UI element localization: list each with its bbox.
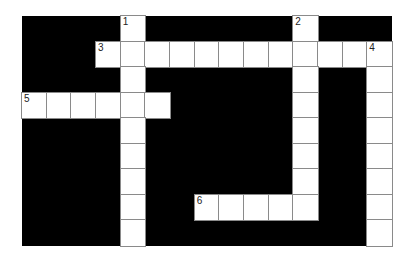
crossword-cell[interactable] (219, 195, 244, 221)
crossword-cell[interactable] (121, 220, 146, 246)
block-cell (343, 93, 368, 119)
crossword-cell[interactable] (145, 93, 170, 119)
crossword-cell[interactable] (145, 42, 170, 68)
crossword-cell[interactable] (293, 93, 318, 119)
block-cell (71, 67, 96, 93)
crossword-cell[interactable] (244, 195, 269, 221)
block-cell (170, 93, 195, 119)
crossword-cell[interactable] (367, 67, 392, 93)
block-cell (244, 144, 269, 170)
crossword-cell[interactable] (121, 42, 146, 68)
crossword-cell[interactable] (293, 169, 318, 195)
crossword-cell[interactable] (269, 42, 294, 68)
block-cell (269, 67, 294, 93)
crossword-cell[interactable] (121, 144, 146, 170)
crossword-cell[interactable] (71, 93, 96, 119)
block-cell (343, 195, 368, 221)
block-cell (318, 195, 343, 221)
crossword-cell[interactable] (367, 195, 392, 221)
block-cell (170, 118, 195, 144)
block-cell (170, 220, 195, 246)
block-cell (244, 67, 269, 93)
block-cell (96, 118, 121, 144)
crossword-cell[interactable]: 4 (367, 42, 392, 68)
block-cell (343, 118, 368, 144)
block-cell (170, 144, 195, 170)
block-cell (71, 220, 96, 246)
block-cell (22, 118, 47, 144)
crossword-cell[interactable] (318, 42, 343, 68)
block-cell (343, 169, 368, 195)
block-cell (318, 220, 343, 246)
block-cell (47, 42, 72, 68)
block-cell (195, 144, 220, 170)
block-cell (22, 144, 47, 170)
block-cell (145, 67, 170, 93)
crossword-cell[interactable] (293, 118, 318, 144)
crossword-cell[interactable] (367, 118, 392, 144)
crossword-cell[interactable] (293, 67, 318, 93)
block-cell (318, 16, 343, 42)
block-cell (47, 118, 72, 144)
block-cell (71, 195, 96, 221)
block-cell (96, 195, 121, 221)
crossword-cell[interactable] (367, 144, 392, 170)
block-cell (219, 16, 244, 42)
block-cell (343, 67, 368, 93)
block-cell (318, 144, 343, 170)
clue-number: 5 (24, 94, 30, 104)
crossword-cell[interactable] (293, 144, 318, 170)
block-cell (219, 169, 244, 195)
clue-number: 6 (197, 196, 203, 206)
block-cell (22, 16, 47, 42)
block-cell (195, 118, 220, 144)
crossword-cell[interactable] (244, 42, 269, 68)
clue-number: 4 (369, 43, 375, 53)
crossword-cell[interactable] (219, 42, 244, 68)
crossword-cell[interactable] (293, 195, 318, 221)
block-cell (244, 220, 269, 246)
block-cell (219, 144, 244, 170)
crossword-cell[interactable]: 1 (121, 16, 146, 42)
clue-number: 2 (295, 17, 301, 27)
block-cell (71, 144, 96, 170)
crossword-cell[interactable] (367, 220, 392, 246)
crossword-cell[interactable] (293, 42, 318, 68)
block-cell (96, 67, 121, 93)
crossword-cell[interactable] (170, 42, 195, 68)
block-cell (22, 195, 47, 221)
crossword-cell[interactable] (195, 42, 220, 68)
block-cell (219, 118, 244, 144)
crossword-cell[interactable] (121, 118, 146, 144)
block-cell (96, 169, 121, 195)
block-cell (47, 220, 72, 246)
crossword-cell[interactable] (121, 195, 146, 221)
crossword-cell[interactable] (269, 195, 294, 221)
block-cell (145, 118, 170, 144)
crossword-cell[interactable]: 6 (195, 195, 220, 221)
block-cell (47, 195, 72, 221)
block-cell (219, 67, 244, 93)
block-cell (145, 195, 170, 221)
crossword-cell[interactable] (343, 42, 368, 68)
block-cell (96, 220, 121, 246)
crossword-cell[interactable] (121, 93, 146, 119)
crossword-cell[interactable] (96, 93, 121, 119)
block-cell (244, 169, 269, 195)
crossword-cell[interactable]: 3 (96, 42, 121, 68)
crossword-cell[interactable] (47, 93, 72, 119)
block-cell (343, 144, 368, 170)
clue-number: 1 (123, 17, 129, 27)
crossword-cell[interactable]: 5 (22, 93, 47, 119)
crossword-cell[interactable] (367, 93, 392, 119)
block-cell (269, 16, 294, 42)
block-cell (96, 16, 121, 42)
block-cell (244, 93, 269, 119)
crossword-cell[interactable]: 2 (293, 16, 318, 42)
block-cell (170, 195, 195, 221)
block-cell (318, 93, 343, 119)
crossword-cell[interactable] (121, 67, 146, 93)
block-cell (71, 169, 96, 195)
crossword-cell[interactable] (367, 169, 392, 195)
crossword-cell[interactable] (121, 169, 146, 195)
